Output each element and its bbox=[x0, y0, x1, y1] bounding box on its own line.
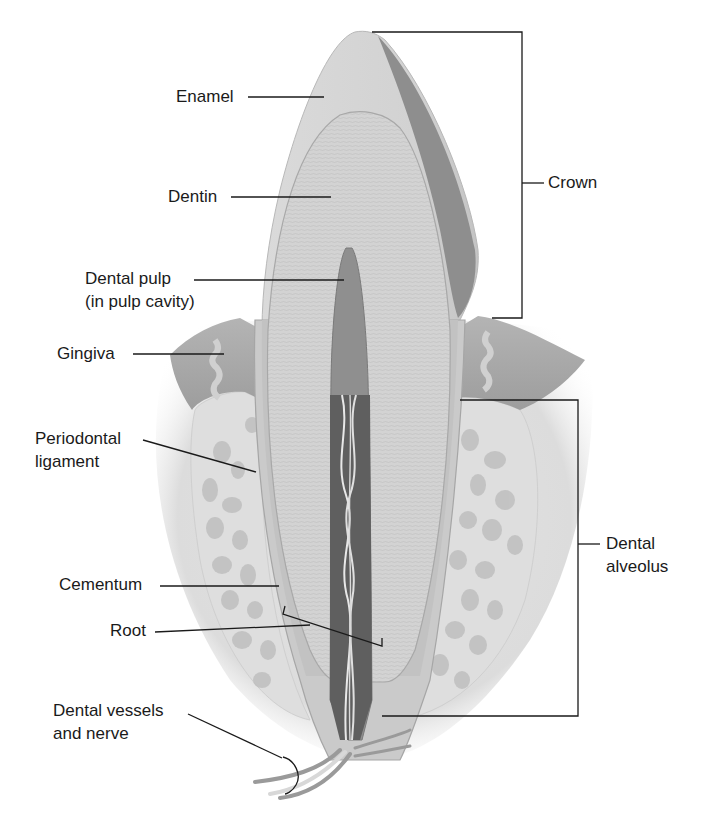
label-dentin: Dentin bbox=[168, 186, 217, 207]
label-root: Root bbox=[110, 620, 146, 641]
label-cementum: Cementum bbox=[59, 574, 142, 595]
label-crown: Crown bbox=[548, 172, 597, 193]
label-alveolus: alveolus bbox=[606, 556, 668, 577]
label-dental: Dental bbox=[606, 533, 655, 554]
label-periodontal-ligament: ligament bbox=[35, 451, 99, 472]
label-enamel: Enamel bbox=[176, 86, 234, 107]
tooth-illustration bbox=[0, 0, 715, 814]
label-gingiva: Gingiva bbox=[57, 343, 115, 364]
label-dental-pulp-sub: (in pulp cavity) bbox=[85, 291, 195, 312]
label-and-nerve: and nerve bbox=[53, 723, 129, 744]
label-dental-pulp: Dental pulp bbox=[85, 268, 171, 289]
label-periodontal: Periodontal bbox=[35, 428, 121, 449]
label-dental-vessels: Dental vessels bbox=[53, 700, 164, 721]
tooth-anatomy-diagram: Enamel Dentin Dental pulp (in pulp cavit… bbox=[0, 0, 715, 814]
